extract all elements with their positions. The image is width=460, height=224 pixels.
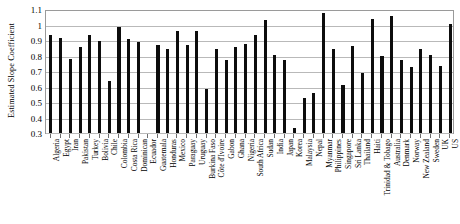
x-tick-mark xyxy=(128,134,129,138)
x-tick-mark xyxy=(352,134,353,138)
bar xyxy=(244,44,247,133)
bar xyxy=(380,56,383,133)
x-tick-label: Australia xyxy=(394,139,401,166)
x-tick-mark xyxy=(215,134,216,138)
x-tick-mark xyxy=(371,134,372,138)
bar xyxy=(69,59,72,133)
x-tick-label: Sweden xyxy=(433,139,440,162)
x-tick-mark xyxy=(293,134,294,138)
x-tick-label: Malaysia xyxy=(306,139,313,166)
plot-area xyxy=(45,10,454,134)
bar xyxy=(400,60,403,133)
bar xyxy=(156,45,159,133)
bar xyxy=(361,73,364,133)
x-tick-label: US xyxy=(452,139,459,148)
bar xyxy=(117,27,120,133)
x-tick-mark xyxy=(254,134,255,138)
x-tick-mark xyxy=(284,134,285,138)
y-tick-label: 0.5 xyxy=(31,98,42,108)
y-axis-title-text: Estimated Slope Coefficient xyxy=(7,23,16,118)
x-tick-label: Burkina Faso xyxy=(209,139,216,179)
x-tick-mark xyxy=(206,134,207,138)
bar xyxy=(176,31,179,133)
x-tick-label: Trinidad & Tobago xyxy=(384,139,391,196)
x-tick-mark xyxy=(430,134,431,138)
bar xyxy=(215,49,218,133)
bar xyxy=(137,42,140,133)
bar xyxy=(303,98,306,133)
x-tick-label: Nepal xyxy=(316,139,323,157)
x-tick-mark xyxy=(196,134,197,138)
x-tick-label: Uruguay xyxy=(199,139,206,165)
bar xyxy=(88,35,91,133)
bar xyxy=(429,55,432,133)
bar xyxy=(351,46,354,133)
bar xyxy=(273,55,276,133)
x-tick-mark xyxy=(50,134,51,138)
x-tick-mark xyxy=(420,134,421,138)
y-tick-label: 1.1 xyxy=(31,5,42,15)
bar xyxy=(254,35,257,133)
x-tick-label: Turkey xyxy=(92,139,99,160)
x-tick-label: Mexico xyxy=(179,139,186,162)
bar xyxy=(439,66,442,133)
x-tick-mark xyxy=(108,134,109,138)
bar xyxy=(225,60,228,133)
x-tick-label: Myanmar xyxy=(326,139,333,168)
bar xyxy=(322,13,325,133)
x-tick-mark xyxy=(361,134,362,138)
x-tick-mark xyxy=(147,134,148,138)
x-tick-label: Algeria xyxy=(53,139,60,161)
y-axis-tick-labels: 0.30.40.50.60.70.80.911.1 xyxy=(20,10,44,134)
x-tick-mark xyxy=(323,134,324,138)
gridline xyxy=(46,133,453,134)
x-tick-mark xyxy=(264,134,265,138)
x-tick-mark xyxy=(381,134,382,138)
bar xyxy=(205,89,208,133)
x-tick-mark xyxy=(225,134,226,138)
x-tick-label: Haiti xyxy=(374,139,381,154)
bar xyxy=(371,19,374,133)
bar xyxy=(332,49,335,133)
bar xyxy=(419,49,422,133)
y-tick-label: 1 xyxy=(38,21,43,31)
x-tick-label: Honduras xyxy=(170,139,177,168)
x-tick-label: UK xyxy=(442,139,449,150)
x-tick-mark xyxy=(176,134,177,138)
bar xyxy=(390,16,393,133)
x-tick-label: South Africa xyxy=(257,139,264,177)
x-tick-mark xyxy=(89,134,90,138)
bar xyxy=(186,45,189,133)
bar xyxy=(283,60,286,133)
y-tick-label: 0.6 xyxy=(31,83,42,93)
x-tick-mark xyxy=(410,134,411,138)
bar xyxy=(49,35,52,133)
x-tick-mark xyxy=(69,134,70,138)
bar xyxy=(234,47,237,133)
x-tick-label: Iran xyxy=(72,139,79,151)
x-tick-label: Egypt xyxy=(63,139,70,157)
x-tick-label: Bolivia xyxy=(102,139,109,161)
y-tick-label: 0.4 xyxy=(31,114,42,124)
y-axis-title: Estimated Slope Coefficient xyxy=(0,0,22,140)
x-tick-mark xyxy=(138,134,139,138)
x-tick-label: Sri Lanka xyxy=(355,139,362,168)
x-tick-label: Costa Rica xyxy=(131,139,138,171)
x-tick-mark xyxy=(167,134,168,138)
x-tick-mark xyxy=(332,134,333,138)
x-tick-label: Pakistan xyxy=(82,139,89,164)
bars-layer xyxy=(46,10,453,133)
bar xyxy=(264,20,267,133)
x-tick-label: Korea xyxy=(296,139,303,157)
x-tick-label: Ecuador xyxy=(150,139,157,164)
x-tick-label: Denmark xyxy=(403,139,410,167)
x-tick-mark xyxy=(118,134,119,138)
bar xyxy=(312,93,315,133)
x-tick-label: Ghana xyxy=(238,139,245,158)
bar xyxy=(127,39,130,133)
bar xyxy=(98,41,101,133)
x-tick-label: Chile xyxy=(111,139,118,155)
x-tick-mark xyxy=(391,134,392,138)
bar xyxy=(166,49,169,133)
